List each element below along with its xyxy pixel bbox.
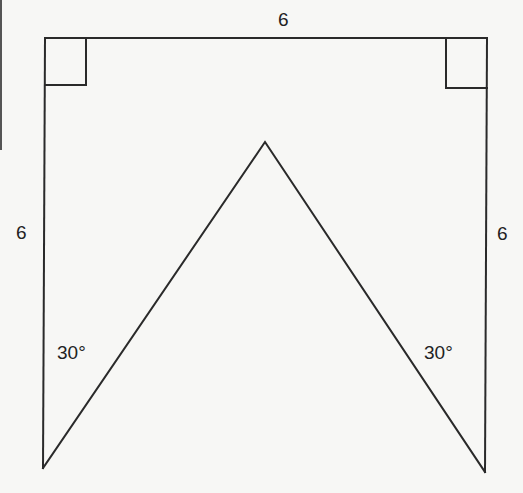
left-angle-label: 30° [57, 343, 86, 362]
geometry-figure [0, 0, 523, 493]
inverted-v-lines [43, 142, 485, 472]
right-angle-marker-right [446, 38, 487, 88]
right-side-label: 6 [497, 224, 508, 243]
top-side-label: 6 [278, 10, 289, 29]
right-angle-label: 30° [424, 343, 453, 362]
left-side-label: 6 [16, 223, 27, 242]
right-side-line [485, 38, 487, 472]
left-side-line [43, 38, 45, 468]
right-angle-marker-left [45, 38, 86, 85]
